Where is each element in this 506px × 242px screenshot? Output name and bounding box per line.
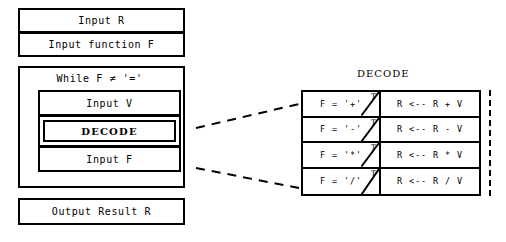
decode-action-cell: R <-- R * V xyxy=(381,143,479,167)
decode-condition-label: F = '*' xyxy=(320,150,362,160)
block-decode-label: DECODE xyxy=(43,120,176,142)
while-loop-body: Input V DECODE Input F xyxy=(38,90,181,184)
decode-row: F = '*' T R <-- R * V xyxy=(303,143,479,169)
decode-condition-cell: F = '/' T xyxy=(303,169,381,195)
input-sequence-group: Input R Input function F xyxy=(18,8,185,56)
block-input-v: Input V xyxy=(38,90,181,116)
decode-condition-cell: F = '-' T xyxy=(303,118,381,142)
while-condition-label: While F ≠ '=' xyxy=(18,66,181,90)
connector-line-top xyxy=(196,104,299,128)
decode-action-cell: R <-- R - V xyxy=(381,118,479,142)
decode-condition-label: F = '-' xyxy=(320,124,362,134)
block-input-function-f: Input function F xyxy=(18,32,185,57)
decode-condition-label: F = '/' xyxy=(320,176,362,186)
decode-action-cell: R <-- R / V xyxy=(381,169,479,195)
branch-true-label: T xyxy=(371,118,376,127)
decode-selection-spine xyxy=(489,90,491,196)
decode-condition-label: F = '+' xyxy=(320,99,362,109)
decode-action-cell: R <-- R + V xyxy=(381,92,479,116)
block-output-result-r: Output Result R xyxy=(18,198,185,225)
while-loop-block: While F ≠ '=' Input V DECODE Input F xyxy=(18,66,185,188)
decode-row: F = '/' T R <-- R / V xyxy=(303,169,479,195)
block-input-r: Input R xyxy=(18,8,185,33)
branch-true-label: T xyxy=(371,169,376,178)
decode-condition-cell: F = '*' T xyxy=(303,143,381,167)
branch-true-label: T xyxy=(371,143,376,152)
connector-line-bottom xyxy=(196,168,299,188)
structogram-canvas: Input R Input function F While F ≠ '=' I… xyxy=(0,0,506,242)
block-input-f: Input F xyxy=(38,146,181,172)
decode-condition-cell: F = '+' T xyxy=(303,92,381,116)
decode-row: F = '-' T R <-- R - V xyxy=(303,118,479,144)
decode-detail-title: DECODE xyxy=(357,68,409,79)
block-decode-subroutine: DECODE xyxy=(38,115,181,147)
decode-row: F = '+' T R <-- R + V xyxy=(303,92,479,118)
decode-selection-table: F = '+' T R <-- R + V F = '-' T R <-- R … xyxy=(301,90,481,196)
branch-true-label: T xyxy=(371,92,376,101)
